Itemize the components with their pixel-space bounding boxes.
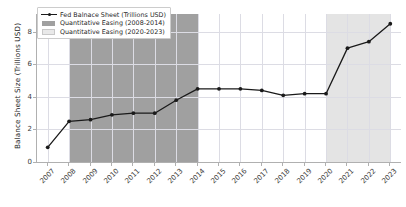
y-tick-label: 8: [8, 28, 32, 36]
data-point: [46, 145, 50, 149]
chart-legend: Fed Balnace Sheet (Trillions USD) Quanti…: [37, 7, 171, 39]
data-point: [260, 89, 264, 93]
data-point: [110, 113, 114, 117]
legend-swatch-qe1-icon: [41, 19, 57, 27]
y-tick-label: 0: [8, 158, 32, 166]
x-tick-mark: [218, 163, 219, 166]
x-tick-mark: [304, 163, 305, 166]
x-tick-mark: [111, 163, 112, 166]
legend-swatch-qe2-icon: [41, 28, 57, 36]
legend-item-qe-2008-2014[interactable]: Quantitative Easing (2008-2014): [41, 19, 166, 27]
data-point: [131, 111, 135, 115]
x-tick-mark: [368, 163, 369, 166]
x-tick-mark: [47, 163, 48, 166]
legend-label: Quantitative Easing (2008-2014): [60, 19, 165, 27]
x-tick-mark: [132, 163, 133, 166]
data-point: [67, 119, 71, 123]
x-tick-mark: [175, 163, 176, 166]
x-tick-mark: [282, 163, 283, 166]
data-point: [196, 87, 200, 91]
series-line: [48, 24, 391, 148]
y-tick-mark: [33, 32, 36, 33]
x-tick-mark: [90, 163, 91, 166]
data-point: [281, 93, 285, 97]
legend-item-qe-2020-2023[interactable]: Quantitative Easing (2020-2023): [41, 28, 166, 36]
y-tick-label: 6: [8, 60, 32, 68]
y-tick-mark: [33, 64, 36, 65]
data-point: [153, 111, 157, 115]
legend-line-marker-icon: [41, 11, 57, 19]
data-point: [174, 98, 178, 102]
x-tick-mark: [68, 163, 69, 166]
y-tick-mark: [33, 129, 36, 130]
data-point: [239, 87, 243, 91]
y-tick-label: 4: [8, 93, 32, 101]
x-tick-mark: [325, 163, 326, 166]
data-point: [367, 40, 371, 44]
x-tick-mark: [261, 163, 262, 166]
data-point: [388, 22, 392, 26]
legend-label: Fed Balnace Sheet (Trillions USD): [60, 11, 166, 19]
x-tick-mark: [154, 163, 155, 166]
y-tick-mark: [33, 97, 36, 98]
data-point: [303, 92, 307, 96]
x-tick-mark: [346, 163, 347, 166]
chart-figure: Balance Sheet Size (Trillions USD) 02468…: [0, 0, 406, 207]
legend-item-balance-sheet[interactable]: Fed Balnace Sheet (Trillions USD): [41, 11, 166, 19]
x-tick-mark: [389, 163, 390, 166]
data-point: [217, 87, 221, 91]
data-point: [89, 118, 93, 122]
y-tick-mark: [33, 162, 36, 163]
data-point: [346, 46, 350, 50]
data-point: [324, 92, 328, 96]
x-tick-mark: [197, 163, 198, 166]
legend-label: Quantitative Easing (2020-2023): [60, 28, 165, 36]
y-tick-label: 2: [8, 125, 32, 133]
x-tick-mark: [239, 163, 240, 166]
